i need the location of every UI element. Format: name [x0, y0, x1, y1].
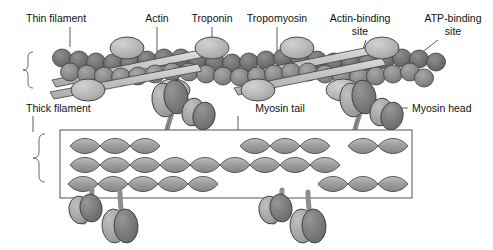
troponin-complex: [110, 37, 144, 59]
label-thick-filament: Thick filament: [26, 102, 91, 132]
label-actin-text: Actin: [145, 12, 169, 24]
troponin-complex: [195, 37, 229, 59]
troponin-complex: [365, 37, 399, 59]
myosin-tail: [240, 139, 330, 154]
myosin-crossbridge: [101, 192, 139, 244]
label-atp-binding-site-line1: ATP-binding: [424, 12, 481, 24]
thick-filament: [60, 78, 412, 243]
label-atp-binding-site-line2: site: [445, 25, 462, 37]
myosin-crossbridge: [338, 78, 406, 138]
troponin-complex: [280, 37, 314, 59]
myosin-tail: [70, 139, 160, 154]
thin-filament: [50, 37, 446, 101]
label-thick-filament-text: Thick filament: [26, 102, 91, 114]
label-myosin-tail-text: Myosin tail: [255, 102, 305, 114]
label-actin-binding-site-line1: Actin-binding: [330, 12, 391, 24]
label-thin-filament-text: Thin filament: [26, 12, 86, 24]
label-tropomyosin-text: Tropomyosin: [247, 12, 307, 24]
myosin-crossbridge: [150, 78, 218, 138]
bracket-thick-filament: [33, 134, 45, 182]
label-troponin-text: Troponin: [191, 12, 232, 24]
myosin-tail: [70, 158, 340, 173]
troponin-complex: [241, 79, 275, 101]
myosin-tail: [318, 177, 408, 192]
label-thin-filament: Thin filament: [26, 12, 86, 47]
label-myosin-head-text: Myosin head: [412, 102, 472, 114]
label-actin-binding-site-line2: site: [352, 25, 369, 37]
troponin-complex: [71, 79, 105, 101]
bracket-thin-filament: [23, 52, 33, 88]
myosin-crossbridge: [289, 192, 327, 244]
diagram-canvas: Thin filament Actin Troponin Tropomyosin…: [0, 0, 493, 250]
